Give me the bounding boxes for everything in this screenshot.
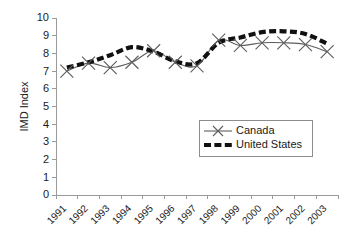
data-point-marker-canada [125, 56, 138, 69]
x-tick-label: 1993 [88, 202, 112, 226]
chart-container: 012345678910 199119921993199419951996199… [0, 0, 345, 245]
y-tick-label: 3 [43, 135, 49, 147]
y-tick-label: 4 [43, 118, 49, 130]
y-tick-label: 5 [43, 100, 49, 112]
legend-label-canada: Canada [236, 124, 275, 136]
y-tick-label: 2 [43, 153, 49, 165]
x-tick-label: 2001 [262, 202, 286, 226]
x-tick-label: 1998 [197, 202, 221, 226]
x-tick-label: 2003 [305, 202, 329, 226]
x-tick-label: 1992 [66, 202, 90, 226]
y-tick-label: 1 [43, 171, 49, 183]
series-line-united-states [67, 31, 327, 67]
x-tick-label: 1995 [132, 202, 156, 226]
x-tick-label: 2000 [240, 202, 264, 226]
x-tick-label: 1994 [110, 202, 134, 226]
legend-label-united-states: United States [236, 138, 303, 150]
y-tick-label: 8 [43, 47, 49, 59]
data-point-marker-canada [321, 45, 334, 58]
x-tick-label: 1997 [175, 202, 199, 226]
data-series-group [60, 31, 333, 77]
line-chart: 012345678910 199119921993199419951996199… [0, 0, 345, 245]
chart-legend: CanadaUnited States [199, 120, 312, 156]
y-axis-title: IMD Index [18, 81, 30, 132]
data-point-marker-canada [299, 38, 312, 51]
y-tick-label: 6 [43, 82, 49, 94]
y-tick-label: 10 [37, 11, 49, 23]
y-tick-label: 0 [43, 188, 49, 200]
x-tick-label: 1999 [218, 202, 242, 226]
y-axis: 012345678910 [37, 11, 56, 200]
y-tick-label: 7 [43, 65, 49, 77]
x-tick-label: 1996 [153, 202, 177, 226]
x-axis: 1991199219931994199519961997199819992000… [45, 195, 338, 226]
x-tick-label: 2002 [283, 202, 307, 226]
y-tick-label: 9 [43, 29, 49, 41]
x-tick-label: 1991 [45, 202, 69, 226]
